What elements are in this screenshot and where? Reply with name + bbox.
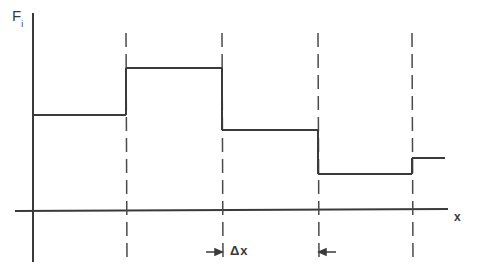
interval-width-label: Δx [230, 243, 249, 258]
step-function-diagram [0, 0, 477, 273]
left-pointing-arrowhead-icon [319, 249, 326, 255]
y-axis-label-text: F [12, 7, 21, 24]
delta-x-arrows [206, 249, 336, 255]
axes [15, 13, 448, 262]
piecewise-constant-steps [33, 68, 445, 174]
y-axis-label: Fi [12, 7, 23, 27]
boundary-line-4 [412, 33, 413, 262]
x-axis-label: x [454, 210, 461, 224]
boundary-line-2 [222, 33, 223, 262]
right-pointing-arrowhead-icon [215, 249, 222, 255]
y-axis-label-subscript: i [21, 19, 23, 29]
x-axis [15, 209, 448, 211]
